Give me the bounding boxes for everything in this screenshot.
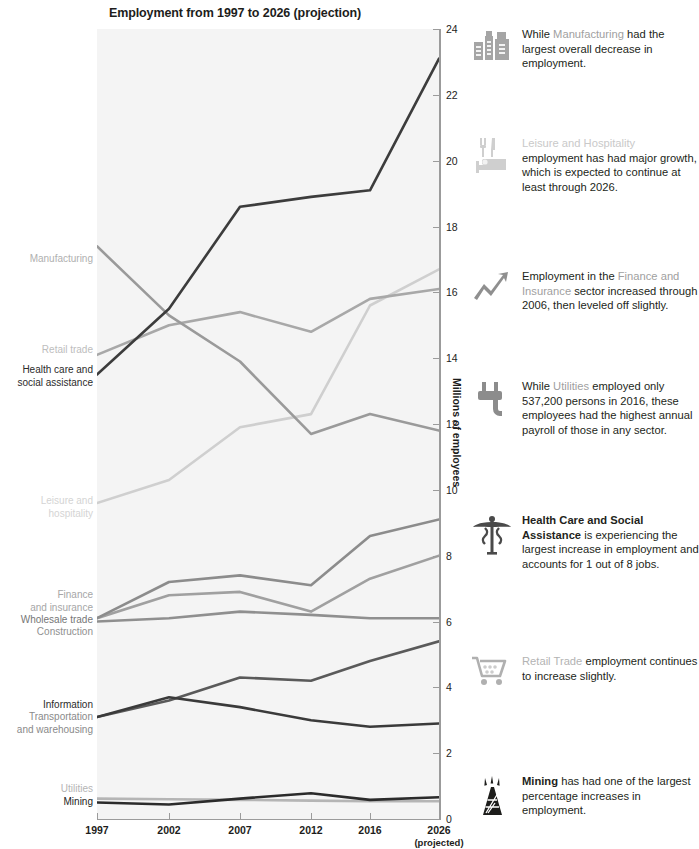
note-post: employment has had major growth, which i… [522,152,697,193]
series-label-finance: Financeand insurance [0,589,93,614]
series-label-mining: Mining [0,796,93,809]
caduceus-icon [470,512,514,558]
series-label-line: Utilities [0,783,93,796]
y-tick [433,161,439,162]
y-tick [433,424,439,425]
annotations-panel: While Manufacturing had the largest over… [470,0,699,849]
oil-derrick-icon [470,773,514,819]
note-text: While Utilities employed only 537,200 pe… [522,378,699,437]
y-tick-label: 14 [446,352,458,364]
series-label-line: Transportation [0,711,93,724]
x-tick-label: 2002 [157,824,180,836]
series-label-line: Construction [0,626,93,639]
note-pre: Employment in the [522,270,618,282]
series-label-line: hospitality [0,508,93,521]
note-manufacturing: While Manufacturing had the largest over… [470,26,699,72]
y-tick [433,95,439,96]
shopping-cart-icon [470,653,514,699]
series-label-manufacturing: Manufacturing [0,253,93,266]
note-text: Leisure and Hospitality employment has h… [522,135,699,194]
series-label-line: Retail trade [0,344,93,357]
series-label-line: Finance [0,589,93,602]
growth-arrow-icon [470,268,514,314]
y-tick [433,358,439,359]
series-line [97,59,439,375]
series-line [97,246,439,434]
y-tick [433,292,439,293]
x-tick [97,813,98,820]
series-label-line: and insurance [0,602,93,615]
series-label-line: Manufacturing [0,253,93,266]
y-tick [433,29,439,30]
page-title: Employment from 1997 to 2026 (projection… [0,6,470,20]
infographic-page: Employment from 1997 to 2026 (projection… [0,0,699,849]
y-tick-label: 16 [446,286,458,298]
y-tick-label: 8 [446,550,452,562]
series-line [97,697,439,727]
x-tick-label: 2007 [228,824,251,836]
y-tick [433,687,439,688]
x-tick [370,813,371,820]
note-highlight: Utilities [553,380,589,392]
power-plug-icon [470,378,514,424]
series-label-construction: Construction [0,626,93,639]
x-tick [240,813,241,820]
note-utilities: While Utilities employed only 537,200 pe… [470,378,699,437]
y-tick [433,753,439,754]
note-highlight: Leisure and Hospitality [522,137,635,149]
y-axis-title: Millions of employees [451,378,463,487]
series-line [97,289,439,355]
note-retail-trade: Retail Trade employment continues to inc… [470,653,699,699]
note-pre: While [522,380,553,392]
series-label-retail-trade: Retail trade [0,344,93,357]
series-label-line: social assistance [0,377,93,390]
series-label-line: Information [0,699,93,712]
note-leisure-hospitality: Leisure and Hospitality employment has h… [470,135,699,194]
plot-area [97,29,439,819]
series-line [97,520,439,619]
series-label-information: Information [0,699,93,712]
series-line [97,612,439,622]
note-finance-insurance: Employment in the Finance and Insurance … [470,268,699,314]
x-tick [169,813,170,820]
factory-icon [470,26,514,72]
y-tick-label: 22 [446,89,458,101]
series-label-health-care: Health care andsocial assistance [0,364,93,389]
note-mining: Mining has had one of the largest percen… [470,773,699,819]
series-label-line: Health care and [0,364,93,377]
x-tick-sublabel: (projected) [414,837,463,848]
x-tick [439,813,440,820]
y-tick-label: 6 [446,616,452,628]
series-label-utilities: Utilities [0,783,93,796]
series-label-transportation: Transportationand warehousing [0,711,93,736]
y-tick-label: 2 [446,747,452,759]
y-tick-label: 18 [446,221,458,233]
note-text: Employment in the Finance and Insurance … [522,268,699,314]
note-text: While Manufacturing had the largest over… [522,26,699,72]
series-label-line: Leisure and [0,495,93,508]
x-tick-label: 2016 [358,824,381,836]
chart-panel: Employment from 1997 to 2026 (projection… [0,0,470,849]
series-label-line: Mining [0,796,93,809]
note-text: Health Care and Social Assistance is exp… [522,512,699,571]
series-label-leisure: Leisure andhospitality [0,495,93,520]
series-lines [97,29,439,819]
y-axis-line [439,29,441,820]
x-tick-label: 1997 [85,824,108,836]
note-pre: While [522,28,553,40]
y-tick-label: 20 [446,155,458,167]
series-line [97,641,439,717]
series-line [97,269,439,503]
series-line [97,556,439,619]
series-label-wholesale: Wholesale trade [0,614,93,627]
series-label-line: Wholesale trade [0,614,93,627]
leisure-hospitality-icon [470,135,514,181]
y-tick [433,490,439,491]
note-highlight: Retail Trade [522,655,582,667]
note-health-care: Health Care and Social Assistance is exp… [470,512,699,571]
x-axis-line [97,819,441,820]
series-label-line: and warehousing [0,724,93,737]
x-tick-label: 2026(projected) [414,824,463,848]
y-tick-label: 24 [446,23,458,35]
note-text: Mining has had one of the largest percen… [522,773,699,819]
